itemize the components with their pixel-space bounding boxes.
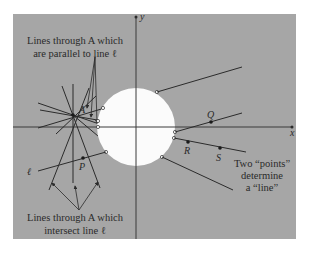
point-q-label: Q xyxy=(207,109,215,120)
point-s-label: S xyxy=(216,152,221,163)
point-a-dot xyxy=(71,113,75,117)
parallel-caption-line2: are parallel to line ℓ xyxy=(33,48,117,59)
y-axis-arrow-dot xyxy=(135,16,138,19)
y-axis-label: y xyxy=(139,11,145,22)
intersect-caption-line1: Lines through A which xyxy=(27,212,124,223)
two-points-caption-line1: Two “points” xyxy=(234,158,290,169)
point-r-label: R xyxy=(183,145,190,156)
line-l-label: ℓ xyxy=(27,166,31,177)
point-r-dot xyxy=(186,140,190,144)
two-points-caption-line2: determine xyxy=(241,170,283,181)
point-a-label: A xyxy=(78,104,86,115)
parallel-caption-line1: Lines through A which xyxy=(27,35,124,46)
x-axis-label: x xyxy=(289,127,295,138)
point-p-dot xyxy=(81,156,85,160)
two-points-caption-line3: a “line” xyxy=(246,182,279,193)
point-s-dot xyxy=(218,146,222,150)
point-p-label: P xyxy=(78,161,85,172)
intersect-caption-line2: intersect line ℓ xyxy=(44,225,106,236)
point-q-dot xyxy=(209,120,213,124)
poincare-disk-diagram: A ℓ P Q R S y x Lines through A which xyxy=(0,0,314,253)
